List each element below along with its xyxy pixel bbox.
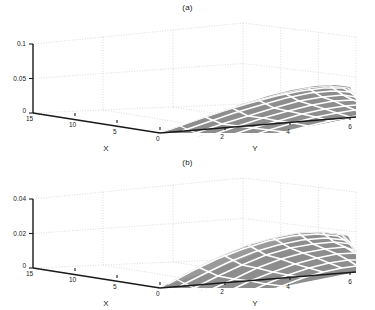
x-tick-label: 10: [69, 276, 77, 283]
x-tick-label: 15: [26, 270, 34, 277]
subplot-b-canvas: 0.04 0.02 0 15 10 5 0 2 4 6 X Y: [0, 155, 375, 310]
x-tick-label: 5: [113, 283, 117, 290]
z-tick-label: 0.05: [13, 75, 26, 82]
y-axis-label-b: Y: [252, 299, 258, 308]
surface-plot-b: 0.04 0.02 0 15 10 5 0 2 4 6 X Y: [0, 155, 375, 310]
subplot-a: (a): [0, 0, 375, 155]
y-tick-label: 2: [220, 133, 224, 140]
z-tick-label: 0.04: [13, 195, 26, 202]
subplot-a-canvas: 0.1 0.05 0 15 10 5 0 2 4 6 X Y: [0, 0, 375, 155]
z-tick-label: 0.1: [17, 40, 26, 47]
y-tick-label: 4: [286, 128, 290, 135]
z-tick-label: 0: [22, 262, 26, 269]
figure-container: (a): [0, 0, 375, 310]
z-tick-label: 0: [22, 107, 26, 114]
x-tick-label: 0: [156, 135, 160, 142]
x-axis-label-a: X: [103, 144, 109, 153]
x-tick-label: 5: [113, 128, 117, 135]
x-tick-label: 0: [156, 290, 160, 297]
z-tick-label: 0.02: [13, 230, 26, 237]
x-tick-label: 15: [26, 115, 34, 122]
x-tick-label: 10: [69, 121, 77, 128]
z-tick-labels-b: 0.04 0.02 0: [13, 195, 26, 269]
x-axis-label-b: X: [103, 299, 109, 308]
y-tick-label: 6: [348, 123, 352, 130]
y-tick-label: 6: [348, 278, 352, 285]
z-tick-labels-a: 0.1 0.05 0: [13, 40, 26, 114]
y-tick-label: 4: [286, 283, 290, 290]
subplot-b: (b): [0, 155, 375, 310]
surface-plot-a: 0.1 0.05 0 15 10 5 0 2 4 6 X Y: [0, 0, 375, 155]
y-tick-label: 2: [220, 288, 224, 295]
y-axis-label-a: Y: [252, 144, 258, 153]
